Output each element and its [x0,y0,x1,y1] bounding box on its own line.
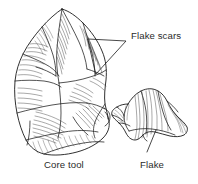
core-tool-flake-illustration: Flake scars Core tool Flake [0,0,198,184]
label-flake: Flake [140,159,164,170]
figure-root: Flake scars Core tool Flake [0,0,198,184]
label-flake-scars: Flake scars [131,30,181,41]
label-core-tool: Core tool [44,159,84,170]
